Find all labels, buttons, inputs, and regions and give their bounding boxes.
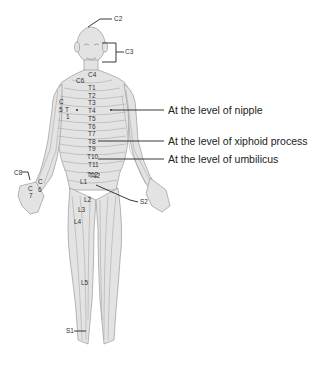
label-l5: L5 — [81, 279, 89, 286]
label-l1: L1 — [80, 178, 88, 185]
label-c3: C3 — [125, 48, 134, 55]
right-nipple-dot — [110, 109, 112, 111]
label-t5: T5 — [88, 115, 96, 122]
right-hand — [146, 178, 170, 212]
c2-leader — [88, 19, 112, 27]
label-arm-t: T — [65, 106, 69, 113]
label-s1: S1 — [66, 327, 74, 334]
right-arm — [124, 84, 160, 196]
label-arm-1: 1 — [66, 113, 70, 120]
label-t9: T9 — [88, 145, 96, 152]
label-arm-c: C — [59, 98, 64, 105]
label-t12-lower: T12 — [89, 172, 101, 179]
label-c2: C2 — [114, 15, 123, 22]
dermatome-diagram: C2 C3 C4 C6 T1 T2 T3 T4 T5 T6 T7 T8 T9 T… — [0, 0, 321, 365]
label-t11: T11 — [88, 161, 99, 168]
label-l4: L4 — [74, 218, 82, 225]
label-t3: T3 — [88, 99, 96, 106]
c8-leader — [22, 172, 30, 180]
left-nipple-dot — [76, 109, 78, 111]
annotation-umbilicus: At the level of umbilicus — [168, 153, 278, 165]
label-t7: T7 — [88, 130, 96, 137]
left-ear — [75, 42, 80, 52]
label-hand-c6a: C — [38, 178, 43, 185]
head — [77, 27, 105, 63]
label-hand-c7a: C — [28, 185, 33, 192]
label-t1: T1 — [88, 84, 96, 91]
label-t4: T4 — [88, 107, 96, 114]
label-s2: S2 — [140, 198, 148, 205]
label-t2: T2 — [88, 92, 96, 99]
annotation-xiphoid: At the level of xiphoid process — [168, 135, 308, 147]
label-arm-5: 5 — [59, 106, 63, 113]
label-c4: C4 — [88, 71, 97, 78]
label-c8: C8 — [14, 169, 23, 176]
right-ear — [103, 42, 108, 52]
label-l2: L2 — [84, 196, 92, 203]
annotation-nipple: At the level of nipple — [168, 104, 263, 116]
label-t8: T8 — [88, 138, 96, 145]
label-c6: C6 — [76, 77, 85, 84]
label-t10: T10 — [87, 153, 99, 160]
label-hand-c7b: 7 — [29, 192, 33, 199]
label-l3: L3 — [78, 206, 86, 213]
label-hand-c6b: 6 — [38, 186, 42, 193]
label-t6: T6 — [88, 123, 96, 130]
